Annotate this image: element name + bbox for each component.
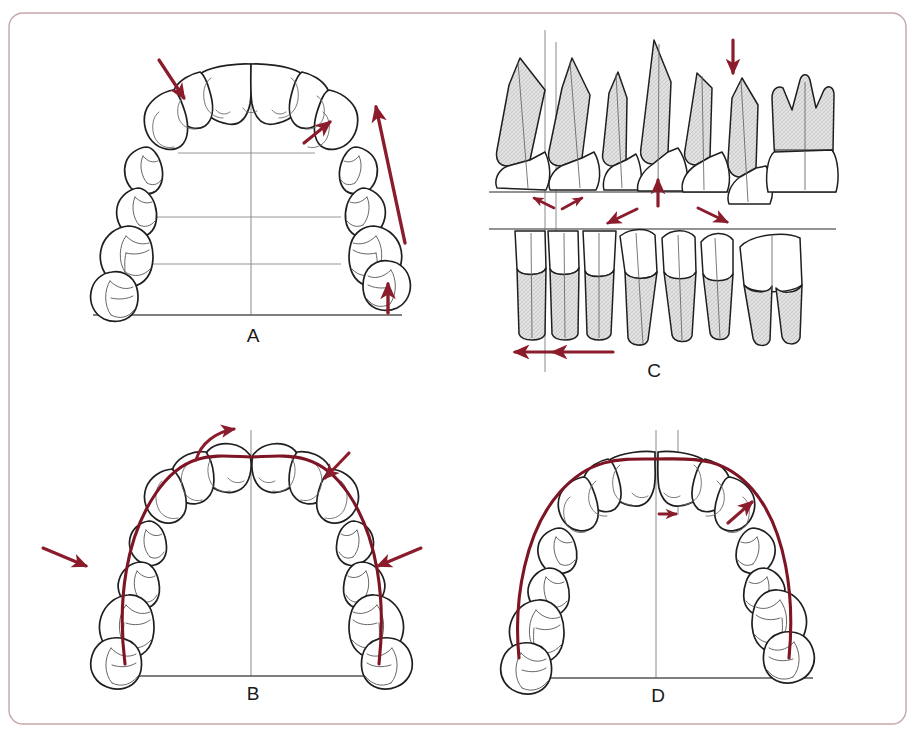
panel-c-label: C: [647, 360, 661, 381]
panel-c-upper-tooth-6-root: [728, 78, 758, 177]
panel-c-arrow-lower-right-arch: [698, 208, 727, 222]
panel-c-lower-tooth-7-root: [744, 285, 772, 345]
panel-b-arrow-right-premolar-inward: [378, 548, 421, 566]
panel-c-arrow-midline-right-small: [562, 198, 582, 209]
panel-c-upper-tooth-2-root: [549, 58, 590, 166]
panel-c-lower-tooth-1-crown: [515, 231, 546, 275]
panel-b-arrow-left-premolar-inward: [43, 548, 86, 566]
panel-c-upper-tooth-7-root: [772, 75, 834, 162]
panel-b: B: [43, 429, 421, 704]
figure-root: A: [0, 0, 917, 740]
panel-c-lower-tooth-7-root-distal: [776, 285, 802, 344]
panel-d: D: [501, 430, 815, 706]
panel-c-lower-tooth-3-crown: [583, 231, 616, 277]
panel-c-upper-tooth-4-root: [641, 40, 671, 164]
panel-b-tooth-second-molar-left: [91, 638, 142, 689]
panel-c-lower-tooth-2-crown: [548, 231, 579, 275]
panel-c-lower-tooth-3-root: [585, 270, 614, 340]
panel-d-tooth-second-molar-left: [501, 643, 552, 694]
panel-b-tooth-first-premolar-left: [129, 521, 166, 565]
panel-b-tooth-second-molar-right: [361, 638, 412, 689]
panel-c-arrow-lower-left-arch: [608, 209, 637, 223]
panel-c-lower-teeth: [515, 230, 802, 346]
dental-arch-figure: A: [0, 0, 917, 740]
panel-c-arrow-midline-left-small: [534, 198, 554, 208]
tooth-first-premolar-right: [339, 147, 377, 194]
panel-a-label: A: [247, 325, 260, 346]
panel-c-upper-tooth-1-root: [496, 58, 545, 166]
panel-d-label: D: [651, 685, 665, 706]
panel-c-lower-tooth-7-crown: [740, 234, 802, 291]
panel-d-arch-teeth: [501, 451, 815, 694]
panel-b-arch-teeth: [91, 444, 413, 689]
panel-c-upper-tooth-3-root: [603, 72, 627, 166]
panel-c: C: [489, 30, 838, 381]
panel-d-tooth-first-premolar-left: [538, 528, 577, 574]
panel-b-label: B: [247, 683, 260, 704]
panel-c-upper-teeth: [496, 40, 838, 204]
tooth-first-premolar-left: [125, 147, 163, 194]
panel-c-upper-tooth-5-root: [685, 73, 712, 165]
panel-d-tooth-first-premolar-right: [736, 528, 775, 574]
panel-b-tooth-first-premolar-right: [337, 521, 374, 565]
panel-c-upper-tooth-7-crown: [767, 150, 838, 192]
panel-a: A: [91, 60, 411, 346]
